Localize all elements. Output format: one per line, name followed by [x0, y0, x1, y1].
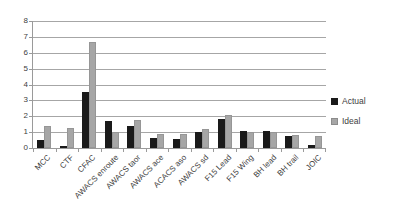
gridline-2	[33, 116, 326, 117]
plot-area	[32, 21, 326, 149]
x-tick-6	[168, 148, 169, 152]
legend-item-ideal: Ideal	[331, 117, 366, 126]
y-tick-label: 5	[4, 65, 28, 73]
legend-label-ideal: Ideal	[342, 117, 360, 126]
gridline-6	[33, 53, 326, 54]
x-category-label: BH lead	[252, 153, 278, 179]
x-tick-2	[78, 148, 79, 152]
gridline-5	[33, 69, 326, 70]
y-tick-4	[29, 85, 33, 86]
x-category-label: JOIC	[304, 153, 323, 172]
x-tick-8	[213, 148, 214, 152]
bar-actual-6	[173, 139, 180, 148]
y-tick-1	[29, 132, 33, 133]
x-tick-11	[281, 148, 282, 152]
y-tick-5	[29, 69, 33, 70]
x-category-label: MCC	[33, 153, 52, 172]
actual-swatch-icon	[331, 98, 338, 105]
x-tick-7	[191, 148, 192, 152]
x-tick-1	[56, 148, 57, 152]
bar-actual-9	[240, 131, 247, 148]
bar-actual-12	[308, 145, 315, 148]
y-tick-8	[29, 21, 33, 22]
bar-actual-1	[60, 146, 67, 148]
bar-ideal-11	[292, 135, 299, 148]
y-tick-2	[29, 116, 33, 117]
x-tick-5	[146, 148, 147, 152]
bar-ideal-0	[44, 126, 51, 148]
bar-ideal-9	[247, 132, 254, 148]
x-tick-4	[123, 148, 124, 152]
y-tick-label: 0	[4, 144, 28, 152]
y-tick-label: 7	[4, 33, 28, 41]
x-category-label: BH trail	[276, 153, 301, 178]
legend: Actual Ideal	[331, 97, 366, 137]
y-tick-label: 3	[4, 96, 28, 104]
bar-ideal-6	[180, 134, 187, 148]
gridline-8	[33, 21, 326, 22]
bar-actual-0	[37, 140, 44, 148]
bar-ideal-10	[270, 132, 277, 148]
gridline-7	[33, 37, 326, 38]
x-tick-10	[258, 148, 259, 152]
x-tick-end	[325, 148, 326, 152]
bar-ideal-12	[315, 136, 322, 148]
legend-item-actual: Actual	[331, 97, 366, 106]
x-tick-9	[236, 148, 237, 152]
bar-ideal-4	[134, 120, 141, 148]
gridline-3	[33, 100, 326, 101]
bar-actual-2	[82, 92, 89, 148]
bar-actual-10	[263, 131, 270, 148]
y-tick-label: 4	[4, 81, 28, 89]
y-tick-label: 2	[4, 112, 28, 120]
x-tick-12	[303, 148, 304, 152]
y-tick-label: 6	[4, 49, 28, 57]
bar-ideal-7	[202, 129, 209, 148]
bar-actual-4	[127, 126, 134, 148]
y-tick-label: 1	[4, 128, 28, 136]
y-tick-7	[29, 37, 33, 38]
bar-actual-8	[218, 119, 225, 148]
y-tick-3	[29, 100, 33, 101]
bar-ideal-5	[157, 134, 164, 148]
gridline-4	[33, 85, 326, 86]
bar-ideal-2	[89, 42, 96, 148]
bar-actual-11	[285, 136, 292, 148]
x-tick-3	[101, 148, 102, 152]
bar-ideal-8	[225, 115, 232, 148]
ideal-swatch-icon	[331, 118, 338, 125]
x-category-label: CTF	[58, 153, 75, 170]
x-tick-0	[33, 148, 34, 152]
y-tick-6	[29, 53, 33, 54]
bar-ideal-1	[67, 128, 74, 148]
bar-chart-figure: 012345678 MCCCTFCFACAWACS enrouteAWACS t…	[0, 0, 400, 221]
bar-ideal-3	[112, 132, 119, 148]
bar-actual-3	[105, 121, 112, 148]
y-tick-label: 8	[4, 17, 28, 25]
legend-label-actual: Actual	[342, 97, 366, 106]
bar-actual-7	[195, 132, 202, 148]
bar-actual-5	[150, 138, 157, 148]
